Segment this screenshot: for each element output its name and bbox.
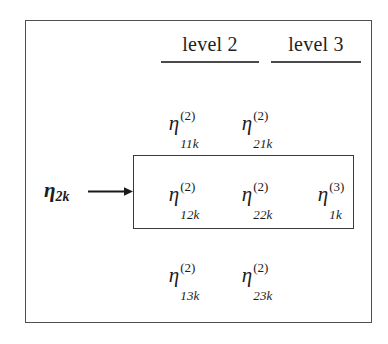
eta-subscript: 22k bbox=[253, 208, 272, 221]
eta-symbol: η bbox=[169, 111, 179, 135]
eta-symbol: η bbox=[318, 182, 328, 206]
eta-cell-r2c2: η(2)22k bbox=[204, 184, 290, 205]
eta-symbol: η bbox=[242, 182, 252, 206]
column-header-level-3: level 3 bbox=[271, 34, 361, 63]
eta-superscript: (2) bbox=[180, 261, 195, 274]
eta-cell-r1c2: η(2)21k bbox=[204, 113, 290, 134]
column-header-level-2-label: level 2 bbox=[182, 33, 237, 55]
eta-subscript: 12k bbox=[180, 208, 199, 221]
eta-subscript: 11k bbox=[180, 137, 198, 150]
eta-subscript: 23k bbox=[253, 289, 272, 302]
column-header-level-2: level 2 bbox=[161, 34, 259, 63]
figure-canvas: level 2 level 3 η(2)11k η(2)21k η2k η(2)… bbox=[0, 0, 388, 344]
eta-superscript: (2) bbox=[253, 109, 268, 122]
eta-cell-r3c2: η(2)23k bbox=[204, 265, 290, 286]
eta-superscript: (2) bbox=[253, 180, 268, 193]
eta-symbol: η bbox=[242, 263, 252, 287]
column-header-level-3-rule bbox=[271, 61, 361, 63]
eta-vector-symbol: η bbox=[44, 178, 56, 202]
column-header-level-3-label: level 3 bbox=[288, 33, 343, 55]
eta-symbol: η bbox=[242, 111, 252, 135]
eta-cell-r2c3: η(3)1k bbox=[280, 184, 366, 205]
eta-superscript: (3) bbox=[329, 180, 344, 193]
eta-superscript: (2) bbox=[180, 109, 195, 122]
column-header-level-2-rule bbox=[161, 61, 259, 63]
eta-vector-subscript: 2k bbox=[56, 189, 70, 204]
arrow-right-icon bbox=[88, 186, 133, 197]
eta-superscript: (2) bbox=[180, 180, 195, 193]
eta-symbol: η bbox=[169, 182, 179, 206]
eta-superscript: (2) bbox=[253, 261, 268, 274]
eta-symbol: η bbox=[169, 263, 179, 287]
eta-subscript: 21k bbox=[253, 137, 272, 150]
eta-subscript: 1k bbox=[329, 208, 342, 221]
eta-vector-label: η2k bbox=[44, 180, 70, 204]
eta-subscript: 13k bbox=[180, 289, 199, 302]
